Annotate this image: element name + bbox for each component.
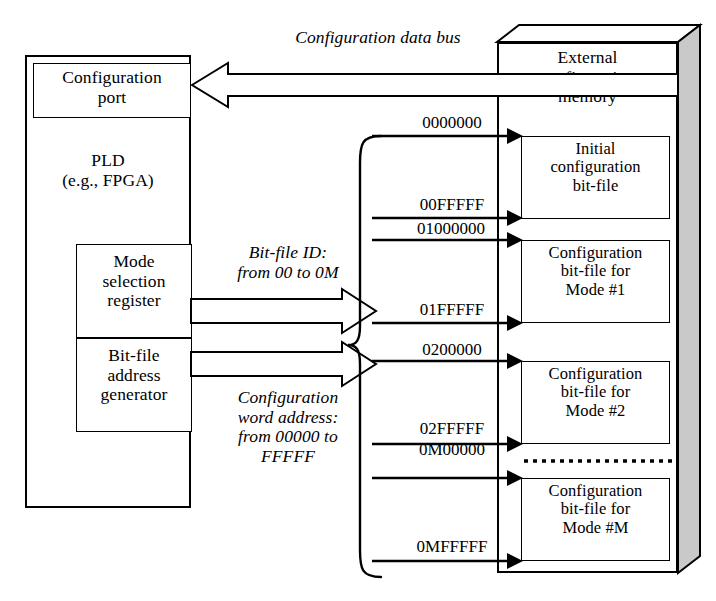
configuration-port-label: Configuration port [33,68,191,107]
memory-block-1-label: Configuration bit-file for Mode #1 [521,244,670,299]
address-label-3-end: 0MFFFFF [392,537,512,557]
memory-top-face [497,25,700,42]
bitfile-id-arrow [191,289,376,333]
configuration-data-bus-label: Configuration data bus [236,28,520,48]
diagram-canvas: Configuration port PLD (e.g., FPGA) Mode… [0,0,716,601]
word-address-annotation: Configuration word address: from 00000 t… [200,388,376,466]
address-label-3-start: 0M00000 [392,440,512,460]
address-label-1-start: 01000000 [387,219,515,239]
address-label-0-end: 00FFFFF [392,195,512,215]
pld-label: PLD (e.g., FPGA) [25,151,191,190]
address-label-2-start: 0200000 [392,340,512,360]
memory-right-face [678,25,700,573]
memory-block-2-label: Configuration bit-file for Mode #2 [521,365,670,420]
bitfile-id-annotation: Bit-file ID: from 00 to 0M [200,243,376,282]
address-label-1-end: 01FFFFF [392,300,512,320]
mode-selection-register-label: Mode selection register [76,252,192,311]
external-memory-label: External configuration memory [497,48,678,107]
memory-block-0-label: Initial configuration bit-file [521,140,670,195]
address-label-0-start: 0000000 [392,113,512,133]
address-grouping-brace [348,136,381,577]
bitfile-address-generator-label: Bit-file address generator [76,346,192,405]
word-address-arrow [191,342,376,386]
address-label-2-end: 02FFFFF [392,419,512,439]
memory-block-3-label: Configuration bit-file for Mode #M [521,482,670,537]
